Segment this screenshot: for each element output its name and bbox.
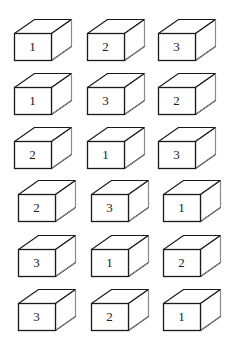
numbered-box: 2 (163, 235, 225, 279)
box-number-label: 3 (158, 141, 195, 169)
box-number-label: 3 (18, 249, 55, 277)
numbered-box: 1 (163, 180, 225, 224)
numbered-box: 2 (87, 19, 149, 63)
box-number-label: 2 (18, 194, 55, 222)
box-number-label: 2 (158, 87, 195, 115)
box-number-label: 1 (14, 33, 51, 61)
numbered-box: 2 (18, 180, 80, 224)
numbered-box: 3 (18, 235, 80, 279)
numbered-box: 3 (91, 180, 153, 224)
numbered-box: 2 (158, 73, 220, 117)
box-number-label: 2 (14, 141, 51, 169)
numbered-box: 2 (91, 289, 153, 333)
numbered-box: 3 (158, 127, 220, 171)
box-number-label: 1 (163, 194, 200, 222)
box-number-label: 3 (18, 303, 55, 331)
box-number-label: 1 (87, 141, 124, 169)
box-number-label: 1 (14, 87, 51, 115)
numbered-box: 1 (14, 19, 76, 63)
numbered-box: 3 (87, 73, 149, 117)
box-number-label: 3 (158, 33, 195, 61)
box-number-label: 2 (91, 303, 128, 331)
numbered-box: 1 (163, 289, 225, 333)
box-number-label: 2 (87, 33, 124, 61)
box-number-label: 1 (91, 249, 128, 277)
numbered-box: 1 (87, 127, 149, 171)
box-number-label: 1 (163, 303, 200, 331)
box-number-label: 3 (91, 194, 128, 222)
numbered-box: 2 (14, 127, 76, 171)
box-number-label: 2 (163, 249, 200, 277)
numbered-box: 3 (18, 289, 80, 333)
box-number-label: 3 (87, 87, 124, 115)
numbered-box: 1 (91, 235, 153, 279)
numbered-box: 3 (158, 19, 220, 63)
box-grid-diagram: 123132213231312321 (0, 0, 230, 348)
numbered-box: 1 (14, 73, 76, 117)
